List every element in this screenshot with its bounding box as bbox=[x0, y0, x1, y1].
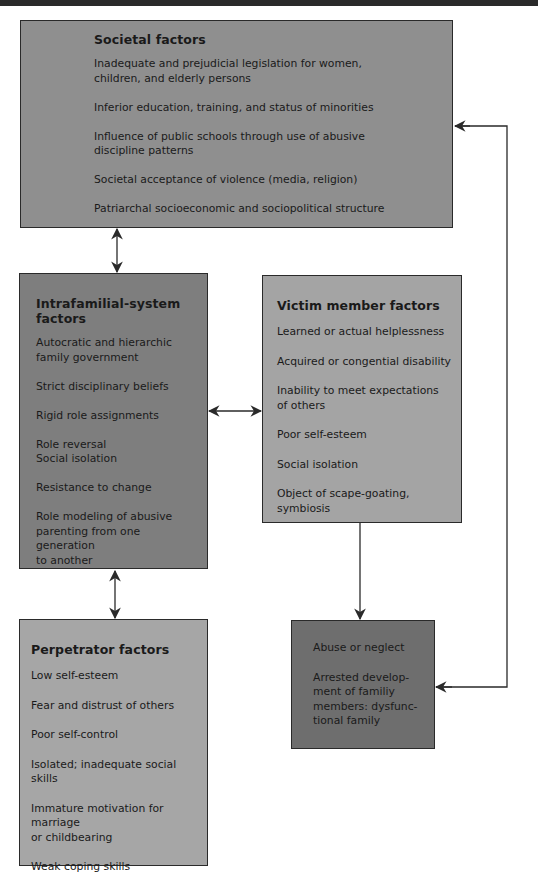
list-item: Object of scape-goating, symbiosis bbox=[277, 487, 455, 516]
box-title: Perpetrator factors bbox=[31, 642, 201, 657]
list-item: Learned or actual helplessness bbox=[277, 325, 455, 340]
list-item: Inability to meet expectations of others bbox=[277, 384, 455, 413]
list-item: Acquired or congential disability bbox=[277, 355, 455, 370]
list-item: Inadequate and prejudicial legislation f… bbox=[94, 57, 452, 86]
list-item: Inferior education, training, and status… bbox=[94, 101, 452, 116]
list-item: Abuse or neglect bbox=[313, 641, 428, 656]
list-item: Weak coping skills bbox=[31, 860, 201, 875]
abuse-outcome-box: Abuse or neglect Arrested develop- ment … bbox=[291, 620, 435, 749]
victim-member-factors-box: Victim member factors Learned or actual … bbox=[262, 275, 462, 523]
list-item: Resistance to change bbox=[36, 481, 201, 496]
list-item: Low self-esteem bbox=[31, 669, 201, 684]
box-title: Intrafamilial-system factors bbox=[36, 296, 201, 326]
list-item: Isolated; inadequate social skills bbox=[31, 758, 201, 787]
list-item: Role reversal Social isolation bbox=[36, 438, 201, 467]
box-title: Victim member factors bbox=[277, 298, 455, 313]
list-item: Rigid role assignments bbox=[36, 409, 201, 424]
intrafamilial-factors-box: Intrafamilial-system factors Autocratic … bbox=[19, 273, 208, 569]
perpetrator-factors-box: Perpetrator factors Low self-esteem Fear… bbox=[19, 619, 208, 866]
top-edge-strip bbox=[0, 0, 538, 6]
societal-factors-box: Societal factors Inadequate and prejudic… bbox=[20, 20, 453, 228]
list-item: Autocratic and hierarchic family governm… bbox=[36, 336, 201, 365]
list-item: Poor self-esteem bbox=[277, 428, 455, 443]
list-item: Immature motivation for marriage or chil… bbox=[31, 802, 201, 846]
list-item: Role modeling of abusive parenting from … bbox=[36, 510, 201, 568]
box-title: Societal factors bbox=[94, 32, 452, 47]
list-item: Arrested develop- ment of familiy member… bbox=[313, 671, 428, 729]
list-item: Fear and distrust of others bbox=[31, 699, 201, 714]
list-item: Societal acceptance of violence (media, … bbox=[94, 173, 452, 188]
list-item: Poor self-control bbox=[31, 728, 201, 743]
list-item: Strict disciplinary beliefs bbox=[36, 380, 201, 395]
list-item: Influence of public schools through use … bbox=[94, 130, 452, 159]
list-item: Patriarchal socioeconomic and sociopolit… bbox=[94, 202, 452, 217]
list-item: Social isolation bbox=[277, 458, 455, 473]
